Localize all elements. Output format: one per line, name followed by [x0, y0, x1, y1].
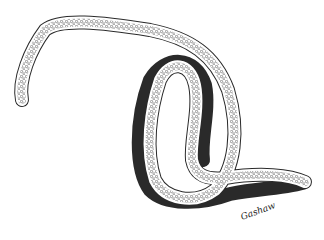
worm-granular-interior [21, 22, 305, 198]
nematode-illustration [0, 0, 324, 240]
